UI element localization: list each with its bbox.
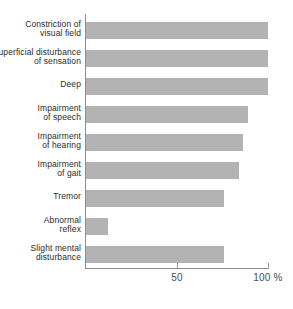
bar-category-label: Impairmentof gait [0, 159, 81, 178]
bar-category-label: Slight mentaldisturbance [0, 243, 81, 262]
bar-row: Impairmentof speech [0, 104, 293, 121]
bar [86, 106, 248, 123]
bar-row: Impairmentof hearing [0, 132, 293, 149]
bar-category-label-line: Tremor [0, 192, 81, 202]
bar-category-label-line: of hearing [0, 141, 81, 151]
bar-category-label: Abnormalreflex [0, 215, 81, 234]
bar-category-label-line: of sensation [0, 57, 81, 67]
x-axis-tick-mark [268, 263, 269, 269]
bar-category-label: Impairmentof speech [0, 103, 81, 122]
bar [86, 50, 268, 67]
bar [86, 134, 243, 151]
bar-category-label-line: visual field [0, 29, 81, 39]
bar-category-label-line: disturbance [0, 253, 81, 263]
bar-row: Impairmentof gait [0, 160, 293, 177]
bar-category-label: Impairmentof hearing [0, 131, 81, 150]
x-axis-tick-mark [177, 263, 178, 269]
bar [86, 22, 268, 39]
bar [86, 246, 224, 263]
bar [86, 78, 268, 95]
bar-category-label-line: of gait [0, 169, 81, 179]
bar [86, 190, 224, 207]
bar-row: Tremor [0, 188, 293, 205]
bar [86, 218, 108, 235]
bar-row: Superficial disturbanceof sensation [0, 48, 293, 65]
bar-category-label: Tremor [0, 192, 81, 202]
bar-category-label-line: reflex [0, 225, 81, 235]
bar-category-label-line: of speech [0, 113, 81, 123]
bar-row: Constriction ofvisual field [0, 20, 293, 37]
bar-category-label: Deep [0, 80, 81, 90]
x-axis-tick-label: 50 [171, 272, 183, 283]
bar-category-label: Constriction ofvisual field [0, 19, 81, 38]
bar-row: Deep [0, 76, 293, 93]
x-axis-tick-label: 100 % [253, 272, 282, 283]
bar-category-label: Superficial disturbanceof sensation [0, 47, 81, 66]
bar-row: Slight mentaldisturbance [0, 244, 293, 261]
bar-chart: Constriction ofvisual fieldSuperficial d… [0, 0, 293, 309]
bar-row: Abnormalreflex [0, 216, 293, 233]
bar-category-label-line: Deep [0, 80, 81, 90]
bar [86, 162, 239, 179]
